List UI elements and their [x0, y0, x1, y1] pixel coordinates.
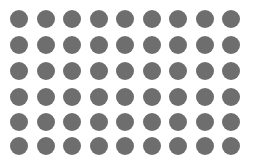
dot: [196, 113, 214, 131]
dot: [63, 113, 81, 131]
dot-grid: [0, 0, 256, 167]
dot: [222, 88, 240, 106]
dot: [10, 10, 28, 28]
dot: [90, 137, 108, 155]
dot: [90, 113, 108, 131]
dot: [90, 10, 108, 28]
dot: [90, 62, 108, 80]
dot: [90, 36, 108, 54]
dot: [116, 113, 134, 131]
dot: [116, 88, 134, 106]
dot: [196, 62, 214, 80]
dot: [10, 113, 28, 131]
dot: [222, 36, 240, 54]
dot: [196, 10, 214, 28]
dot: [169, 88, 187, 106]
dot: [169, 137, 187, 155]
dot: [116, 62, 134, 80]
dot: [196, 36, 214, 54]
dot: [116, 36, 134, 54]
dot: [10, 137, 28, 155]
dot: [143, 113, 161, 131]
dot: [143, 137, 161, 155]
dot: [143, 62, 161, 80]
dot: [37, 62, 55, 80]
dot: [37, 113, 55, 131]
dot: [63, 62, 81, 80]
dot: [143, 36, 161, 54]
dot: [63, 10, 81, 28]
dot: [169, 10, 187, 28]
dot: [37, 137, 55, 155]
dot: [222, 10, 240, 28]
dot: [222, 113, 240, 131]
dot: [143, 10, 161, 28]
dot: [143, 88, 161, 106]
dot: [10, 62, 28, 80]
dot: [63, 137, 81, 155]
dot: [37, 10, 55, 28]
dot: [222, 137, 240, 155]
dot: [169, 113, 187, 131]
dot: [196, 88, 214, 106]
dot: [63, 36, 81, 54]
dot: [196, 137, 214, 155]
dot: [116, 10, 134, 28]
dot: [169, 36, 187, 54]
dot: [63, 88, 81, 106]
dot: [10, 88, 28, 106]
dot: [116, 137, 134, 155]
dot: [10, 36, 28, 54]
dot: [90, 88, 108, 106]
dot: [37, 36, 55, 54]
dot: [222, 62, 240, 80]
dot: [169, 62, 187, 80]
dot: [37, 88, 55, 106]
